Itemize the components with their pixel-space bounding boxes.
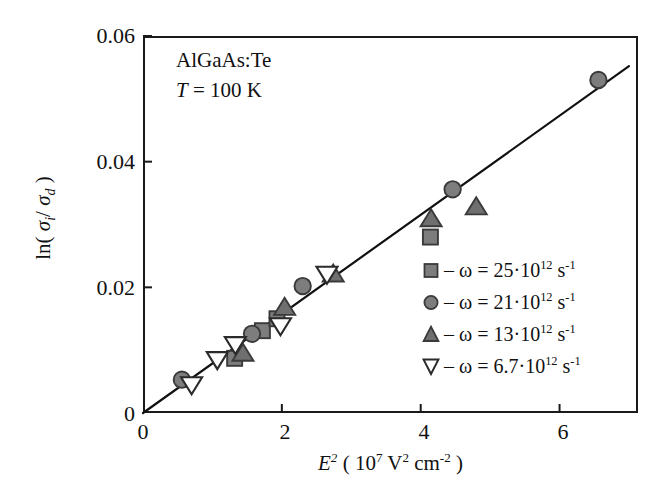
legend-entry[interactable]: – ω = 6.7·1012 s-1 [420,350,581,382]
figure-scatter-plot: 0.06 0.04 0.02 0 0 2 4 6 E2 ( 107 V2 cm-… [0,0,667,503]
triangle-down-glyph [420,355,442,377]
data-point-triangle-up [466,197,487,214]
legend-base: 10 [520,259,540,281]
annotation-temperature: T = 100 K [176,76,271,106]
x-axis-factor-base: 10 [355,451,376,475]
legend-dash: – [444,291,454,313]
legend-dash: – [444,259,454,281]
legend-omega-symbol: ω [459,291,472,313]
legend-mantissa: 21 [493,291,513,313]
legend-unit-exponent: -1 [565,258,575,272]
legend-mantissa: 6.7 [493,355,518,377]
filled-triangle-up-marker-icon [420,323,442,345]
x-axis-open-paren: ( [343,451,350,475]
xtick-label: 2 [265,421,305,443]
legend: – ω = 25·1012 s-1– ω = 21·1012 s-1– ω = … [420,254,581,382]
legend-base: 10 [520,291,540,313]
legend-mantissa: 25 [493,259,513,281]
legend-entry-label: – ω = 21·1012 s-1 [444,292,576,312]
y-axis-sigma-d: σ [31,195,55,205]
legend-base: 10 [520,323,540,345]
x-axis-unit-volts: V [387,451,402,475]
series-0 [227,230,438,366]
legend-unit-exponent: -1 [565,322,575,336]
xtick-label: 0 [123,421,163,443]
plot-annotations: AlGaAs:Te T = 100 K [176,46,271,106]
y-axis-sigma-i-subscript: i [43,217,58,221]
xtick-label: 4 [404,421,444,443]
y-axis-open-paren: ( [31,236,55,243]
legend-entry-label: – ω = 25·1012 s-1 [444,260,576,280]
y-axis-function: ln [31,243,55,259]
annotation-material: AlGaAs:Te [176,46,271,76]
y-axis-close-paren: ) [31,176,55,183]
data-point-circle [590,72,606,88]
data-point-circle [244,326,260,342]
x-axis-title: E2 ( 107 V2 cm-2 ) [143,452,638,475]
data-point-circle [444,181,460,197]
legend-omega-symbol: ω [459,259,472,281]
legend-entry-label: – ω = 13·1012 s-1 [444,324,576,344]
x-axis-symbol: E [318,451,331,475]
x-axis-unit-volts-exponent: 2 [402,450,409,465]
x-axis-close-paren: ) [456,451,463,475]
legend-exponent: 12 [540,290,552,304]
legend-base: 10 [525,355,545,377]
legend-equals: = [472,323,493,345]
data-point-triangle-down [207,352,228,369]
x-axis-unit-cm-exponent: -2 [440,450,451,465]
legend-unit-exponent: -1 [565,290,575,304]
legend-unit-exponent: -1 [570,354,580,368]
legend-equals: = [472,291,493,313]
legend-entry[interactable]: – ω = 21·1012 s-1 [420,286,581,318]
legend-exponent: 12 [540,322,552,336]
y-axis-slash: / [31,211,55,217]
legend-entry-label: – ω = 6.7·1012 s-1 [444,356,581,376]
y-axis-sigma-d-subscript: d [43,189,58,196]
x-axis-symbol-exponent: 2 [331,450,338,465]
legend-dash: – [444,355,454,377]
data-point-circle [294,278,310,294]
temperature-value: = 100 K [188,78,262,102]
x-axis-unit-cm: cm [414,451,440,475]
y-axis-title: ln( σi/ σd ) [31,176,55,259]
legend-mantissa: 13 [493,323,513,345]
legend-equals: = [472,355,493,377]
xtick-label: 6 [543,421,583,443]
legend-equals: = [472,259,493,281]
legend-exponent: 12 [540,258,552,272]
circle-glyph [420,291,442,313]
temperature-symbol: T [176,78,188,102]
legend-exponent: 12 [545,354,557,368]
legend-omega-symbol: ω [459,355,472,377]
y-axis-title-wrapper: ln( σi/ σd ) [32,88,72,348]
data-point-square [423,230,438,245]
square-glyph [420,259,442,281]
filled-square-marker-icon [420,259,442,281]
legend-entry[interactable]: – ω = 13·1012 s-1 [420,318,581,350]
ytick-label: 0.06 [55,25,135,47]
legend-dash: – [444,323,454,345]
open-triangle-down-marker-icon [420,355,442,377]
y-axis-sigma-i: σ [31,221,55,231]
legend-entry[interactable]: – ω = 25·1012 s-1 [420,254,581,286]
legend-omega-symbol: ω [459,323,472,345]
x-axis-factor-exponent: 7 [376,450,383,465]
triangle-up-glyph [420,323,442,345]
filled-circle-marker-icon [420,291,442,313]
